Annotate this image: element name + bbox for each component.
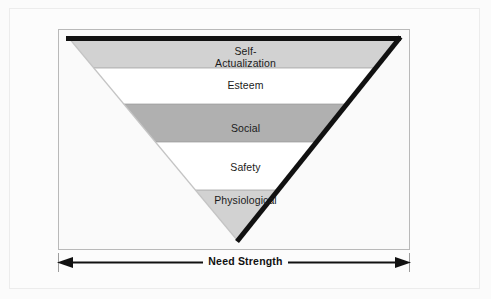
band-self-actualization xyxy=(68,37,400,68)
band-safety xyxy=(155,142,315,190)
band-physiological xyxy=(195,190,277,240)
axis-arrowhead-right xyxy=(395,257,411,268)
band-social xyxy=(124,104,346,142)
diagram-page: Self- Actualization Esteem Social Safety… xyxy=(0,0,491,299)
axis-arrowhead-left xyxy=(57,257,73,268)
need-strength-axis xyxy=(0,250,491,280)
band-esteem xyxy=(94,68,375,104)
